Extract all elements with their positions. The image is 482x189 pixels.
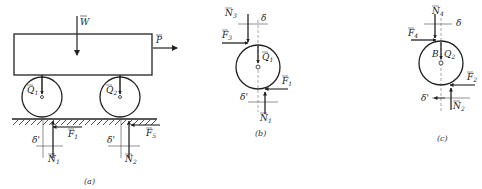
svg-text:F1: F1 <box>67 129 78 140</box>
svg-text:P: P <box>155 35 163 45</box>
svg-text:F4: F4 <box>407 28 418 39</box>
svg-text:W: W <box>80 17 90 27</box>
diagram-canvas: W P Q1 Q2 F1 δ' N1 F5 <box>0 0 482 189</box>
figure-c: N4 δ F4 B Q2 F2 δ' N2 (c) <box>407 6 477 143</box>
label-b: B <box>431 49 439 59</box>
svg-text:F3: F3 <box>221 30 232 41</box>
svg-text:N1: N1 <box>47 154 60 165</box>
svg-text:N2: N2 <box>452 101 465 112</box>
svg-text:F1: F1 <box>281 76 292 87</box>
svg-text:δ': δ' <box>421 93 429 103</box>
label-delta-c: δ <box>456 18 461 28</box>
svg-text:δ: δ <box>456 18 461 28</box>
svg-text:B: B <box>431 49 439 59</box>
svg-text:δ': δ' <box>32 135 40 145</box>
svg-text:Q1: Q1 <box>262 52 273 63</box>
label-delta-prime-c: δ' <box>421 93 429 103</box>
svg-text:δ': δ' <box>107 135 115 145</box>
label-delta-prime-b: δ' <box>240 92 248 102</box>
svg-text:F2: F2 <box>466 72 477 83</box>
svg-text:Q2: Q2 <box>444 49 455 60</box>
label-w: W <box>80 17 90 27</box>
svg-text:F5: F5 <box>145 128 156 139</box>
label-delta-b: δ <box>261 13 266 23</box>
svg-text:N4: N4 <box>431 6 444 17</box>
label-delta-prime-1: δ' <box>32 135 40 145</box>
figure-b: N3 δ F3 Q1 F1 δ' N1 (b) <box>221 8 292 138</box>
svg-text:N3: N3 <box>224 8 237 19</box>
cart-body <box>14 34 152 75</box>
caption-a: (a) <box>84 177 95 186</box>
svg-text:δ: δ <box>261 13 266 23</box>
caption-c: (c) <box>437 134 448 143</box>
svg-text:N1: N1 <box>259 113 272 124</box>
label-p: P <box>155 35 163 45</box>
label-delta-prime-2: δ' <box>107 135 115 145</box>
svg-text:N2: N2 <box>124 154 137 165</box>
svg-text:Q1: Q1 <box>27 85 38 96</box>
svg-text:Q2: Q2 <box>106 85 117 96</box>
caption-b: (b) <box>255 129 266 138</box>
figure-a: W P Q1 Q2 F1 δ' N1 F5 <box>12 16 177 186</box>
svg-text:δ': δ' <box>240 92 248 102</box>
